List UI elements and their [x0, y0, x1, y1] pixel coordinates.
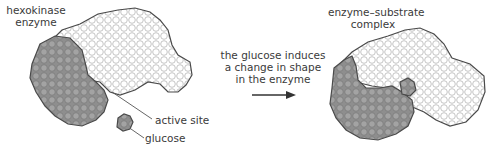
active-site-leader	[112, 92, 152, 119]
arrow-head	[286, 91, 296, 99]
hexokinase-label-line1: hexokinase	[4, 4, 68, 16]
hexokinase-label-line2: enzyme	[4, 16, 68, 28]
complex-label-line1: enzyme–substrate	[328, 6, 418, 18]
arrow-caption-line1: the glucose induces	[218, 49, 328, 61]
hexokinase-label: hexokinase enzyme	[4, 4, 68, 28]
active-site-label: active site	[155, 114, 209, 126]
glucose-label: glucose	[145, 132, 185, 144]
complex-label: enzyme–substrate complex	[328, 6, 418, 30]
glucose-leader	[131, 129, 144, 138]
arrow-caption: the glucose induces a change in shape in…	[218, 49, 328, 85]
glucose-molecule	[117, 114, 133, 131]
arrow-caption-line2: a change in shape	[218, 61, 328, 73]
complex-label-line2: complex	[328, 18, 418, 30]
arrow-caption-line3: in the enzyme	[218, 73, 328, 85]
